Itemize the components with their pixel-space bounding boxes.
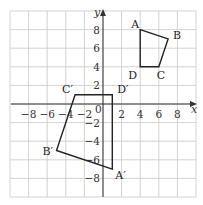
vertex-label: B′ bbox=[43, 145, 54, 158]
x-tick-label: 6 bbox=[155, 108, 162, 120]
y-axis-label: y bbox=[93, 6, 101, 19]
x-axis-label: x bbox=[191, 103, 198, 116]
vertex-label: A bbox=[130, 18, 140, 31]
x-tick-label: 8 bbox=[174, 108, 181, 120]
x-tick-label: 4 bbox=[137, 108, 144, 120]
origin-label: 0 bbox=[95, 103, 102, 115]
y-axis-arrow-icon bbox=[100, 9, 106, 16]
x-tick-label: 2 bbox=[118, 108, 125, 120]
vertex-label: D bbox=[128, 69, 137, 82]
x-tick-label: −4 bbox=[58, 108, 74, 120]
y-tick-label: −8 bbox=[85, 172, 100, 184]
vertex-label: D′ bbox=[117, 83, 129, 96]
x-tick-label: −6 bbox=[39, 108, 55, 120]
y-tick-label: −2 bbox=[85, 117, 100, 129]
shapes bbox=[57, 30, 169, 170]
vertex-label: B bbox=[173, 29, 181, 42]
axes: x y 0 bbox=[11, 6, 198, 197]
y-tick-label: 2 bbox=[93, 79, 100, 91]
vertex-label: C′ bbox=[62, 83, 73, 96]
y-tick-label: 8 bbox=[93, 24, 100, 36]
vertex-label: A′ bbox=[114, 169, 126, 182]
coordinate-grid-diagram: x y 0 −8−6−4−224688642−2−4−6−8 ABCDA′B′C… bbox=[0, 0, 203, 205]
x-tick-label: −8 bbox=[21, 108, 36, 120]
vertex-label: C bbox=[157, 69, 165, 82]
y-tick-label: 6 bbox=[93, 42, 100, 54]
y-tick-label: 4 bbox=[93, 61, 100, 73]
y-tick-label: −4 bbox=[85, 135, 101, 147]
